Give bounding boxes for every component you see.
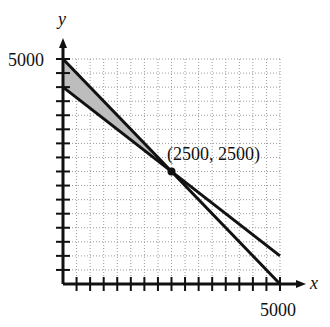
x-max-label: 5000 — [260, 300, 296, 320]
x-axis-arrow-icon — [296, 280, 306, 288]
y-axis-arrow-icon — [59, 38, 67, 48]
intersection-point — [168, 168, 176, 176]
point-annotation: (2500, 2500) — [167, 144, 260, 165]
chart-canvas: y x 5000 5000 (2500, 2500) — [0, 0, 330, 327]
y-max-label: 5000 — [8, 50, 44, 70]
y-axis-label: y — [56, 9, 66, 29]
x-axis-label: x — [309, 273, 318, 293]
